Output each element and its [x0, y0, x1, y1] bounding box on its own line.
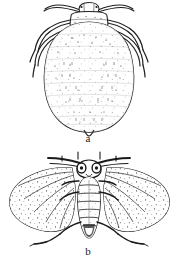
plate-artwork	[0, 0, 179, 261]
wing-right	[97, 162, 173, 236]
figure-b-winged-adult	[6, 152, 173, 246]
winged-head	[77, 160, 101, 178]
wing-left	[6, 162, 82, 236]
figure-a-label: a	[81, 133, 95, 144]
illustration-plate: a b	[0, 0, 179, 261]
figure-b-label: b	[81, 246, 95, 257]
winged-body	[74, 175, 104, 241]
figure-a-aphid-dorsal	[30, 3, 148, 137]
